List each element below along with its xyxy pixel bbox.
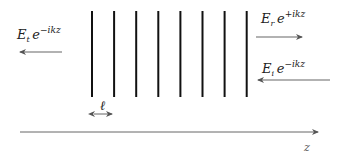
label-exp: −ikz [40, 25, 61, 35]
incident-wave-label: Ei e−ikz [262, 60, 305, 78]
label-base: E [17, 27, 27, 42]
layer-lines [92, 11, 247, 97]
label-sub: i [272, 69, 275, 78]
transmitted-wave-label: Et e−ikz [17, 26, 61, 44]
label-exp: +ikz [285, 9, 306, 19]
label-exp-base: e [277, 11, 285, 26]
label-exp: −ikz [284, 59, 305, 69]
label-exp-base: e [32, 27, 40, 42]
label-base: E [262, 61, 272, 76]
reflected-wave-label: Er e+ikz [261, 10, 305, 28]
z-axis-label: z [304, 142, 310, 153]
label-sub: r [271, 19, 275, 28]
spacing-label: ℓ [100, 99, 105, 112]
label-sub: t [27, 35, 30, 44]
label-base: E [261, 11, 271, 26]
